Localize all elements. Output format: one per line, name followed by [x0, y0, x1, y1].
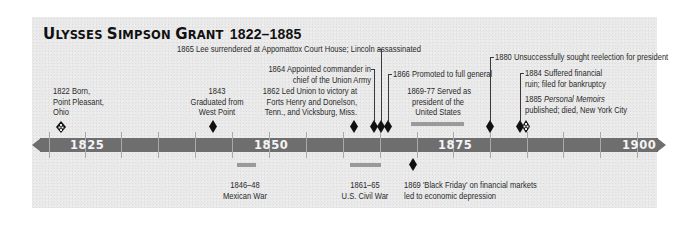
axis-tick: [158, 132, 159, 158]
leader-line: [388, 74, 389, 121]
event-1861-label: 1861–65U.S. Civil War: [334, 180, 396, 201]
title-years: 1822–1885: [230, 26, 302, 42]
title-initial: S: [107, 25, 118, 43]
title-text: RANT: [188, 28, 224, 42]
event-1846-label: 1846–48Mexican War: [214, 180, 276, 201]
presidency-span-bar: [411, 122, 464, 126]
title-initial: U: [43, 25, 55, 43]
diamond-icon: [486, 120, 494, 133]
event-1866-label: 1866 Promoted to full general: [393, 69, 492, 80]
event-1869-black-friday-label: 1869 'Black Friday' on financial markets…: [404, 180, 537, 201]
event-1884-label: 1884 Suffered financialruin; filed for b…: [525, 68, 606, 89]
event-1862-label: 1862 Led Union to victory atForts Henry …: [254, 86, 357, 118]
axis-label-1825: 1825: [70, 138, 104, 152]
axis-tick: [306, 132, 307, 158]
timeline-title: ULYSSES SIMPSON GRANT1822–1885: [43, 24, 302, 43]
leader-line: [520, 73, 521, 121]
diamond-icon: [384, 120, 392, 133]
axis-tick: [527, 132, 528, 158]
event-1869-presidency-label: 1869-77 Served aspresident of theUnited …: [407, 86, 469, 118]
event-1864-label: 1864 Appointed commander inchief of the …: [265, 64, 371, 85]
event-1880-label: 1880 Unsuccessfully sought reelection fo…: [495, 52, 668, 63]
event-1822-label: 1822 Born,Point Pleasant,Ohio: [53, 86, 104, 118]
diamond-icon: [350, 120, 358, 133]
title-text: IMPSON: [118, 28, 175, 42]
axis-right-arrow-icon: [657, 138, 666, 152]
axis-tick: [490, 132, 491, 158]
title-text: LYSSES: [55, 28, 106, 42]
axis-tick: [600, 132, 601, 158]
axis-tick: [195, 132, 196, 158]
event-1865-label: 1865 Lee surrendered at Appomattox Court…: [177, 44, 376, 55]
leader-line: [381, 49, 382, 121]
axis-tick: [417, 132, 418, 158]
diamond-icon: [409, 158, 417, 171]
axis-tick: [343, 132, 344, 158]
civil-war-span-bar: [350, 163, 381, 167]
event-1885-label: 1885 Personal Memoirs published; died, N…: [525, 94, 627, 115]
hollow-diamond-icon: [56, 121, 66, 133]
diamond-icon: [209, 120, 217, 133]
axis-tick: [49, 132, 50, 158]
axis-tick: [563, 132, 564, 158]
hollow-diamond-icon: [522, 120, 530, 133]
axis-label-1900: 1900: [622, 138, 656, 152]
timeline-axis: [40, 138, 658, 152]
axis-tick: [232, 132, 233, 158]
mexican-war-span-bar: [237, 163, 256, 167]
axis-label-1850: 1850: [254, 138, 288, 152]
title-initial: G: [175, 25, 188, 43]
axis-tick: [121, 132, 122, 158]
axis-label-1875: 1875: [438, 138, 472, 152]
event-1843-label: 1843Graduated fromWest Point: [186, 86, 248, 118]
axis-tick: [380, 132, 381, 158]
leader-line: [374, 69, 375, 121]
leader-line: [490, 57, 491, 121]
